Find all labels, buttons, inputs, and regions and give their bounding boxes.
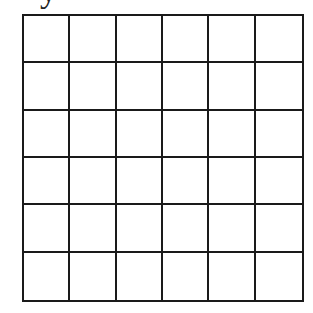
- grid-cell: [70, 16, 116, 63]
- grid-cell: [256, 63, 302, 110]
- grid-cell: [163, 16, 209, 63]
- grid-cell: [117, 111, 163, 158]
- grid-cell: [70, 158, 116, 205]
- grid-cell: [163, 111, 209, 158]
- grid-cell: [163, 63, 209, 110]
- grid-cell: [256, 205, 302, 252]
- square-grid: [22, 14, 304, 302]
- grid-cell: [163, 253, 209, 300]
- grid-cell: [24, 205, 70, 252]
- grid-cell: [70, 205, 116, 252]
- grid-cell: [24, 16, 70, 63]
- grid-cell: [117, 63, 163, 110]
- grid-cell: [24, 253, 70, 300]
- grid-cell: [163, 205, 209, 252]
- grid-cell: [209, 63, 255, 110]
- grid-cell: [117, 16, 163, 63]
- grid-cell: [24, 111, 70, 158]
- grid-cell: [117, 253, 163, 300]
- grid-cell: [70, 111, 116, 158]
- grid-cell: [256, 16, 302, 63]
- grid-cell: [117, 205, 163, 252]
- grid-cell: [209, 205, 255, 252]
- grid-cell: [256, 253, 302, 300]
- grid-cell: [117, 158, 163, 205]
- grid-cell: [209, 158, 255, 205]
- cropped-text-fragment: y: [40, 0, 57, 8]
- grid-cell: [70, 253, 116, 300]
- grid-cell: [209, 111, 255, 158]
- grid-cell: [256, 158, 302, 205]
- grid-cell: [256, 111, 302, 158]
- grid-cell: [24, 158, 70, 205]
- grid-cell: [163, 158, 209, 205]
- grid-cell: [24, 63, 70, 110]
- grid-cell: [209, 16, 255, 63]
- grid-cell: [209, 253, 255, 300]
- grid-cell: [70, 63, 116, 110]
